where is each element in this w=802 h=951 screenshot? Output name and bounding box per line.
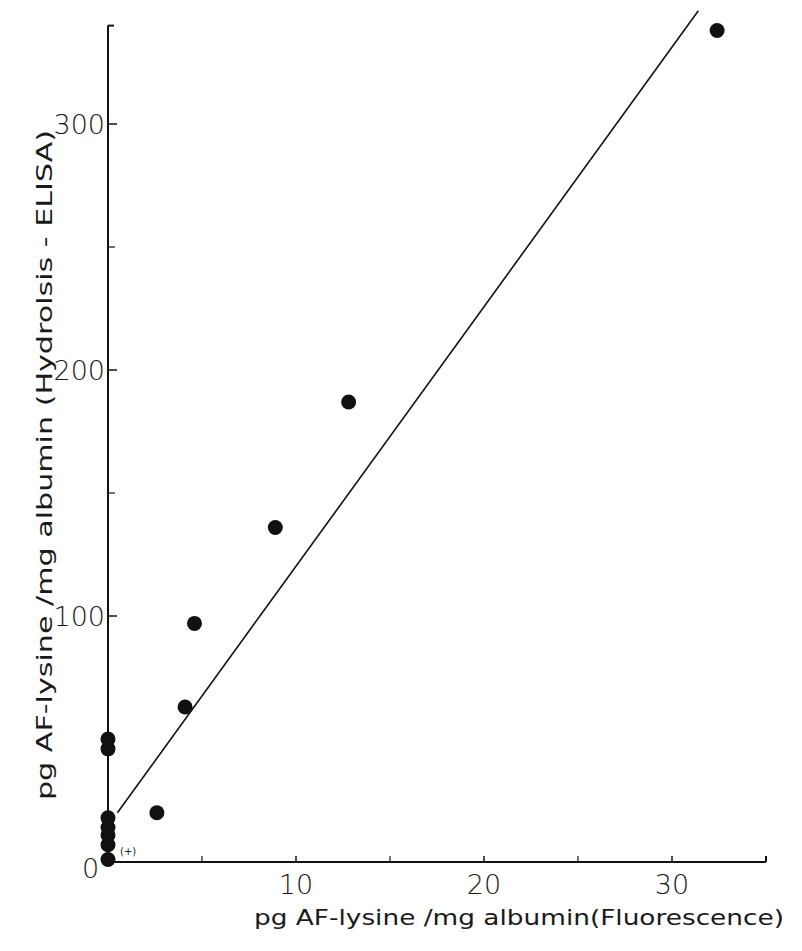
data-point xyxy=(341,394,356,409)
y-tick-label: 100 xyxy=(53,601,105,632)
axis-labels: 0 (+) pg AF-lysine /mg albumin(Fluoresce… xyxy=(32,130,784,930)
y-tick-label: 200 xyxy=(53,355,105,386)
data-point xyxy=(268,520,283,535)
scatter-chart: 100200300102030 0 (+) pg AF-lysine /mg a… xyxy=(0,0,802,951)
regression-line xyxy=(117,11,698,813)
x-tick-label: 30 xyxy=(655,869,689,900)
data-point xyxy=(178,700,193,715)
data-point xyxy=(101,732,116,747)
annotation-plus: (+) xyxy=(120,846,136,857)
axes: 100200300102030 xyxy=(53,26,766,900)
origin-label: 0 xyxy=(82,853,99,884)
y-tick-label: 300 xyxy=(53,109,105,140)
x-axis-title: pg AF-lysine /mg albumin(Fluorescence) xyxy=(254,905,784,930)
data-point xyxy=(101,810,116,825)
y-axis-title: pg AF-lysine /mg albumin (Hydrolsis - EL… xyxy=(32,130,57,800)
data-point xyxy=(710,23,725,38)
x-tick-label: 20 xyxy=(467,869,501,900)
data-point xyxy=(187,616,202,631)
data-points xyxy=(101,23,725,867)
data-point xyxy=(149,805,164,820)
x-tick-label: 10 xyxy=(279,869,313,900)
data-point xyxy=(101,852,116,867)
fit-line xyxy=(117,11,698,813)
